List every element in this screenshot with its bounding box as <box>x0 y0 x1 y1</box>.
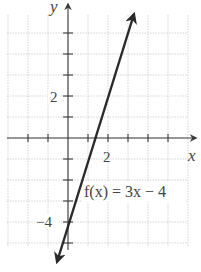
y-tick-label-2: 2 <box>50 89 58 105</box>
y-tick-label-neg4: −4 <box>36 214 52 230</box>
function-label: f(x) = 3x − 4 <box>84 183 166 201</box>
x-axis-label: x <box>187 146 196 165</box>
x-tick-label-2: 2 <box>103 149 111 165</box>
function-graph: f(x) = 3x − 4 y x 2 2 −4 <box>0 0 201 272</box>
y-axis-label: y <box>48 0 58 16</box>
